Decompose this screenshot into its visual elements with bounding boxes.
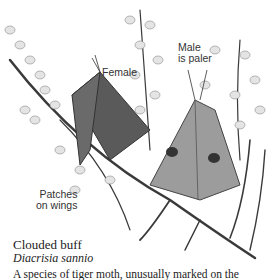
latin-name: Diacrisia sannio <box>13 251 93 266</box>
patches-label: Patches on wings <box>36 189 77 211</box>
male-moth <box>150 70 240 200</box>
male-label: Male is paler <box>178 42 212 64</box>
male-label-line2: is paler <box>178 53 212 64</box>
patches-label-line2: on wings <box>36 200 77 211</box>
female-label: Female <box>102 67 137 78</box>
description: A species of tiger moth, unusually marke… <box>13 268 239 280</box>
